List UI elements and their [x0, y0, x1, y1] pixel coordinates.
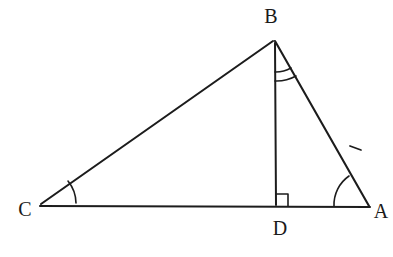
- right-angle-marker-at-d: [276, 194, 288, 206]
- tick-mark-on-ba: [350, 146, 361, 150]
- geometry-figure: B C A D: [0, 0, 393, 257]
- angle-arc-at-a: [334, 176, 349, 206]
- vertex-label-d: D: [273, 217, 287, 239]
- segment-ca: [40, 206, 370, 207]
- segment-bd-altitude: [275, 43, 276, 205]
- segment-ba: [275, 41, 369, 206]
- vertex-label-c: C: [18, 198, 31, 220]
- vertex-label-b: B: [264, 5, 277, 27]
- angle-arc-at-b-inner: [275, 68, 291, 72]
- angle-arc-at-b-outer: [275, 76, 296, 81]
- geometry-canvas: B C A D: [0, 0, 393, 257]
- segment-cb: [41, 41, 273, 204]
- vertex-label-a: A: [374, 200, 389, 222]
